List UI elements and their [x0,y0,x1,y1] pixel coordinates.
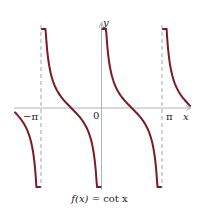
cot-chart [0,0,199,212]
cot-branch [15,112,40,187]
caption-definition: = cot x [88,193,127,204]
caption-function: f(x) [71,193,88,204]
tick-label-pi: π [166,112,173,122]
tick-label-neg-pi: −π [23,112,38,122]
cot-branch [163,29,190,106]
y-axis-label: y [103,18,109,28]
axes [14,22,191,190]
x-axis-label: x [183,112,189,122]
chart-caption: f(x) = cot x [0,193,199,204]
tick-label-zero: 0 [93,111,99,121]
